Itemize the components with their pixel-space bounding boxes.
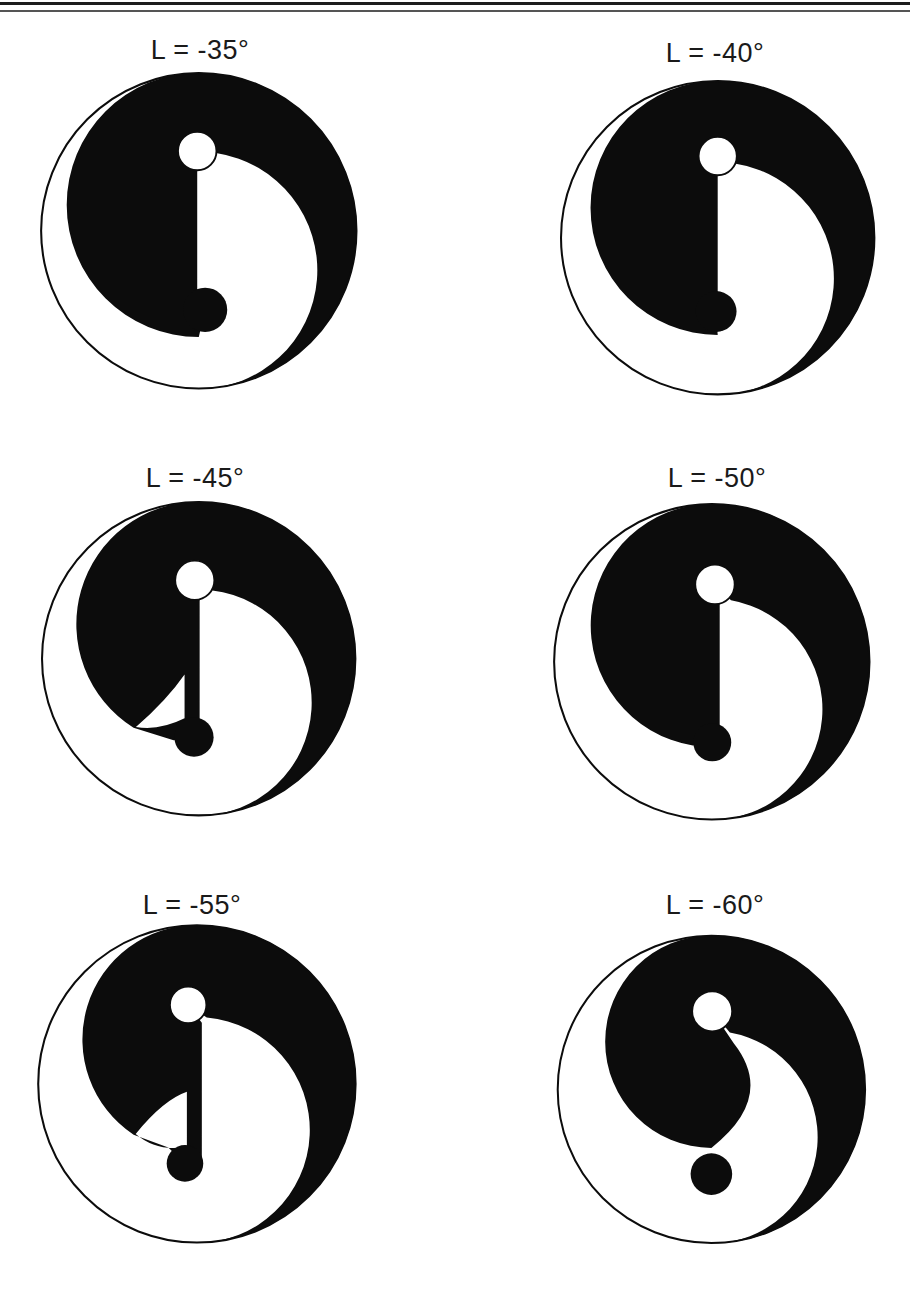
figure-panel-L-minus-50: L = -50° xyxy=(538,456,886,836)
shadow-diagram-svg xyxy=(26,486,371,831)
scanned-page: L = -35° L = -40° L = -45° L = -50° L = … xyxy=(0,0,910,1293)
nodus-circle xyxy=(699,137,737,175)
shadow-diagram-svg xyxy=(545,65,890,410)
nodus-circle xyxy=(178,132,217,171)
gnomon-dot xyxy=(175,718,214,757)
header-rule-bottom xyxy=(0,10,910,12)
shadow-diagram-svg xyxy=(22,909,372,1259)
shadow-region xyxy=(67,73,357,389)
shadow-region xyxy=(77,502,356,816)
shadow-region xyxy=(605,935,865,1243)
figure-panel-L-minus-55: L = -55° xyxy=(22,883,372,1259)
header-rule-top xyxy=(0,2,910,5)
gnomon-dot xyxy=(690,1153,732,1195)
shadow-diagram-svg xyxy=(538,488,886,836)
nodus-circle xyxy=(170,987,207,1024)
gnomon-dot xyxy=(167,1145,204,1182)
figure-panel-L-minus-40: L = -40° xyxy=(545,31,890,411)
figure-label: L = -40° xyxy=(666,38,765,69)
shadow-region xyxy=(83,925,356,1243)
nodus-circle xyxy=(692,991,732,1031)
nodus-circle xyxy=(695,565,734,604)
shadow-diagram-svg xyxy=(542,920,881,1259)
gnomon-dot xyxy=(693,724,731,762)
figure-panel-L-minus-60: L = -60° xyxy=(542,883,881,1258)
shadow-diagram-svg xyxy=(25,57,373,405)
figure-label: L = -60° xyxy=(666,890,765,921)
shadow-region xyxy=(591,504,870,820)
figure-panel-L-minus-35: L = -35° xyxy=(25,28,373,405)
nodus-circle xyxy=(175,561,214,600)
shadow-region xyxy=(591,81,875,395)
figure-panel-L-minus-45: L = -45° xyxy=(26,456,371,832)
gnomon-dot xyxy=(183,288,227,332)
gnomon-dot xyxy=(696,291,737,332)
